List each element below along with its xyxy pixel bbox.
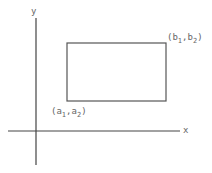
- point-label-b1-b2: (b1,b2): [167, 32, 203, 46]
- diagram-canvas: [0, 0, 212, 173]
- a-mid: ,a: [66, 106, 77, 116]
- b-mid: ,b: [182, 32, 193, 42]
- y-axis-label: y: [31, 6, 36, 16]
- a-open: (a: [51, 106, 62, 116]
- rectangle: [67, 43, 166, 101]
- point-label-a1-a2: (a1,a2): [51, 106, 87, 120]
- b-close: ): [197, 32, 202, 42]
- a-close: ): [81, 106, 86, 116]
- b-open: (b: [167, 32, 178, 42]
- x-axis-label: x: [183, 125, 188, 135]
